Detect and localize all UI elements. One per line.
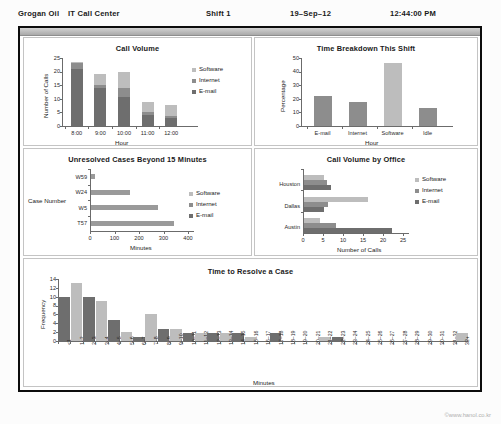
bar-email (314, 96, 332, 126)
x-axis-label: Minutes (253, 379, 275, 386)
panel-time-breakdown: Time Breakdown This Shift 01020304050Per… (254, 37, 478, 146)
bar-800-software (71, 62, 83, 63)
bar-austin-software (304, 218, 320, 223)
legend-swatch-email (189, 214, 193, 218)
x-tick (282, 341, 283, 344)
y-tick-label: Dallas (269, 203, 300, 209)
x-tick-label: 0 (82, 235, 98, 241)
x-tick-label: 100 (107, 235, 123, 241)
x-tick (403, 233, 404, 236)
y-tick-label: W59 (70, 174, 87, 180)
x-tick-label: 12:00 (161, 130, 181, 136)
bar-houston-software (304, 175, 324, 180)
bar-bin-2 (83, 297, 95, 341)
y-tick-label: T57 (70, 220, 87, 226)
x-tick-label: 15 (355, 237, 371, 243)
legend-label-internet: Internet (422, 186, 443, 193)
x-tick-label: 25 (395, 237, 411, 243)
y-tick-label: 6 (46, 311, 56, 317)
y-tick-label: 15 (50, 82, 60, 88)
bar-1200-internet (165, 116, 177, 118)
bar-dallas-email (304, 207, 324, 212)
x-tick (120, 341, 121, 344)
panel-time-to-resolve: Time to Resolve a Case 02468101214Freque… (23, 258, 478, 387)
x-tick (232, 341, 233, 344)
bar-900-email (94, 88, 106, 126)
x-tick (307, 126, 308, 129)
bar-1000-internet (118, 88, 130, 96)
bar-1000-email (118, 97, 130, 126)
x-tick (195, 341, 196, 344)
x-tick (207, 341, 208, 344)
dashboard-page: Grogan Oil IT Call Center Shift 1 19–Sep… (0, 0, 501, 424)
x-axis (62, 126, 198, 127)
x-tick-label: Internet (340, 130, 376, 136)
y-tick-label: 5 (50, 109, 60, 115)
header-company: Grogan Oil (18, 9, 59, 18)
x-tick (393, 341, 394, 344)
plot-time-breakdown: 01020304050PercentageE-mailInternetSoftw… (255, 38, 479, 147)
panel-unresolved-cases: Unresolved Cases Beyond 15 Minutes 01002… (23, 148, 252, 256)
x-tick (381, 341, 382, 344)
x-tick (145, 341, 146, 344)
x-tick-label: 0 (295, 237, 311, 243)
y-tick-label: 10 (46, 294, 56, 300)
bar-1100-email (142, 115, 154, 126)
y-tick (301, 190, 304, 191)
x-tick (244, 341, 245, 344)
x-tick-label: 400 (180, 235, 196, 241)
plot-call-volume-by-office: 0510152025Number of CallsAustinDallasHou… (255, 149, 479, 257)
x-tick-label: 5 (315, 237, 331, 243)
bar-software (384, 63, 402, 126)
x-tick (157, 341, 158, 344)
bar-austin-email (304, 228, 392, 233)
y-axis-label: Frequency (39, 300, 46, 329)
y-tick (88, 185, 91, 186)
x-tick-label: Software (375, 130, 411, 136)
x-tick (342, 126, 343, 129)
x-tick (70, 341, 71, 344)
x-tick (369, 341, 370, 344)
bar-900-software (94, 74, 106, 84)
x-tick (136, 126, 137, 129)
y-tick-label: 14 (46, 276, 56, 282)
x-tick (412, 126, 413, 129)
bar-900-internet (94, 85, 106, 88)
y-axis-label: Case Number (28, 197, 66, 204)
legend-swatch-email (192, 90, 196, 94)
x-tick (182, 341, 183, 344)
y-axis-label: Percentage (279, 80, 286, 112)
x-tick (377, 126, 378, 129)
y-tick-label: 40 (289, 68, 299, 74)
bar-houston-internet (304, 180, 327, 185)
header-department: IT Call Center (68, 9, 120, 18)
bar-idle (419, 108, 437, 126)
x-tick (95, 341, 96, 344)
bar-bin-3 (96, 301, 108, 341)
x-axis-label: Minutes (130, 244, 152, 251)
x-tick (323, 233, 324, 236)
chart-grid: Call Volume 0510152025Number of Calls8:0… (23, 37, 477, 387)
bar-internet (349, 102, 367, 126)
plot-unresolved-cases: 0100200300400MinutesT57W5W24W59Case Numb… (24, 149, 253, 257)
x-tick-label: 300 (156, 235, 172, 241)
y-tick-label: 4 (46, 320, 56, 326)
x-tick (383, 233, 384, 236)
legend-swatch-email (415, 200, 419, 204)
panel-call-volume-by-office: Call Volume by Office 0510152025Number o… (254, 148, 478, 256)
x-tick (344, 341, 345, 344)
y-tick-label: 0 (46, 338, 56, 344)
x-tick (164, 231, 165, 234)
y-tick-label: 20 (289, 96, 299, 102)
bar-austin-internet (304, 223, 336, 228)
y-axis-label: Number of Calls (42, 74, 49, 118)
x-tick (331, 341, 332, 344)
x-axis-label: Number of Calls (337, 246, 381, 253)
x-axis-label: Hour (365, 139, 378, 146)
legend-swatch-software (192, 68, 196, 72)
x-tick (319, 341, 320, 344)
x-tick (108, 341, 109, 344)
x-tick-label: 9:00 (90, 130, 110, 136)
plot-call-volume: 0510152025Number of Calls8:009:0010:0011… (24, 38, 253, 147)
bar-800-internet (71, 63, 83, 68)
